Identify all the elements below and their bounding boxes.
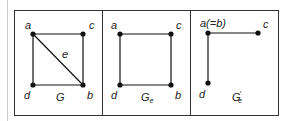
vertex-label-b: b bbox=[175, 89, 181, 101]
vertex-d bbox=[205, 80, 210, 85]
vertex-c bbox=[168, 31, 173, 36]
vertex-c bbox=[80, 31, 85, 36]
vertex-a bbox=[30, 31, 35, 36]
vertex-label-d: d bbox=[111, 89, 118, 101]
vertex-label-a: a bbox=[111, 19, 117, 31]
panel-title-G: G bbox=[56, 91, 65, 103]
panel-G-e: a c d b Ge bbox=[111, 19, 182, 104]
vertex-a-merged-b bbox=[205, 30, 210, 35]
panel-title-G-e: Ge bbox=[141, 91, 154, 104]
edge-label-e: e bbox=[62, 48, 68, 60]
vertex-label-c: c bbox=[176, 19, 182, 31]
vertex-label-c: c bbox=[263, 18, 269, 30]
graph-contraction-diagram: a c d b e G a c d b Ge a(=b) c d G′e bbox=[0, 0, 291, 121]
panel-G-e-prime: a(=b) c d G′e bbox=[199, 17, 269, 104]
vertex-b bbox=[168, 82, 173, 87]
vertex-label-d: d bbox=[199, 88, 206, 100]
vertex-d bbox=[30, 82, 35, 87]
vertex-c bbox=[255, 30, 260, 35]
vertex-label-a-eq-b: a(=b) bbox=[200, 17, 226, 29]
vertex-b bbox=[80, 82, 85, 87]
edge-a-b bbox=[33, 34, 83, 85]
vertex-label-d: d bbox=[24, 89, 31, 101]
vertex-label-b: b bbox=[87, 89, 93, 101]
vertex-a bbox=[117, 31, 122, 36]
vertex-label-a: a bbox=[25, 19, 31, 31]
vertex-label-c: c bbox=[89, 19, 95, 31]
panel-G: a c d b e G bbox=[24, 19, 95, 103]
panel-title-G-e-prime: G′e bbox=[232, 90, 242, 104]
vertex-d bbox=[117, 82, 122, 87]
